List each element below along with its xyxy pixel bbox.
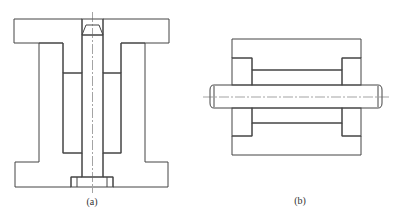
insert-right-top xyxy=(342,58,361,85)
caption-a: (a) xyxy=(86,196,97,208)
outer-column-right xyxy=(103,43,168,187)
caption-b: (b) xyxy=(294,195,306,207)
rubber-lower xyxy=(252,108,342,123)
insert-right-bottom xyxy=(342,108,361,136)
rubber-sleeve-right xyxy=(103,73,121,153)
figure-a xyxy=(14,12,169,193)
figure-b xyxy=(203,39,389,155)
rubber-sleeve-left xyxy=(63,73,82,153)
shaft xyxy=(210,85,382,108)
top-plate-right xyxy=(103,19,169,73)
top-plate xyxy=(14,19,82,73)
insert-left-top xyxy=(232,58,252,85)
technical-drawing: (a) (b) xyxy=(0,0,398,223)
rubber-upper xyxy=(252,70,342,85)
insert-left-bottom xyxy=(232,108,252,136)
outer-column-left xyxy=(15,43,82,187)
